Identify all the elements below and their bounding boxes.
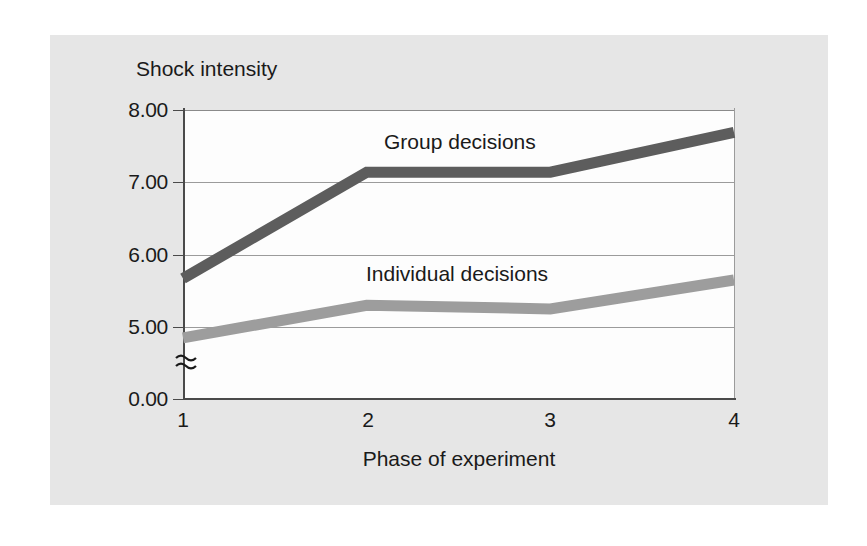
plot-right-edge xyxy=(734,108,735,400)
gridline-7 xyxy=(183,182,735,183)
y-tick-label-8: 8.00 xyxy=(108,98,168,122)
x-axis-title: Phase of experiment xyxy=(183,447,735,471)
x-tick-label-1: 1 xyxy=(163,408,203,432)
y-tick-6 xyxy=(173,255,183,256)
y-tick-label-0: 0.00 xyxy=(108,387,168,411)
x-axis-line xyxy=(183,398,736,400)
gridline-6 xyxy=(183,255,735,256)
gridline-8 xyxy=(183,110,735,111)
series-label-individual-decisions: Individual decisions xyxy=(366,262,548,286)
y-tick-label-6: 6.00 xyxy=(108,243,168,267)
y-tick-0 xyxy=(173,399,183,400)
y-tick-label-5: 5.00 xyxy=(108,315,168,339)
x-tick-label-3: 3 xyxy=(530,408,570,432)
y-tick-label-7: 7.00 xyxy=(108,170,168,194)
x-tick-label-2: 2 xyxy=(348,408,388,432)
y-tick-7 xyxy=(173,182,183,183)
gridline-5 xyxy=(183,327,735,328)
y-axis-line xyxy=(183,108,185,400)
x-tick-label-4: 4 xyxy=(714,408,754,432)
y-tick-5 xyxy=(173,327,183,328)
y-tick-8 xyxy=(173,110,183,111)
series-label-group-decisions: Group decisions xyxy=(384,130,536,154)
y-axis-title: Shock intensity xyxy=(136,57,277,81)
